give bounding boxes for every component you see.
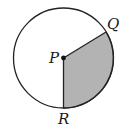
circle-sector-diagram: P Q R (0, 0, 130, 132)
label-p: P (48, 49, 60, 67)
label-q: Q (107, 15, 119, 33)
label-r: R (57, 110, 69, 128)
center-point-p (61, 56, 66, 61)
